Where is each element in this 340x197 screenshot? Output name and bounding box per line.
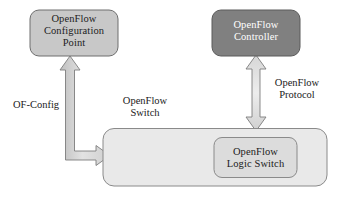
openflow-switch-label: OpenFlow Switch (110, 95, 180, 119)
openflow-protocol-arrow (246, 55, 266, 131)
openflow-controller-label: OpenFlow Controller (212, 19, 300, 43)
openflow-configuration-point-label: OpenFlow Configuration Point (30, 13, 118, 48)
openflow-protocol-connection-label: OpenFlow Protocol (266, 77, 328, 101)
openflow-logic-switch-label: OpenFlow Logic Switch (214, 146, 297, 170)
of-config-connection-label: OF-Config (13, 99, 59, 111)
openflow-architecture-diagram: OpenFlow Configuration Point OpenFlow Co… (0, 0, 340, 197)
